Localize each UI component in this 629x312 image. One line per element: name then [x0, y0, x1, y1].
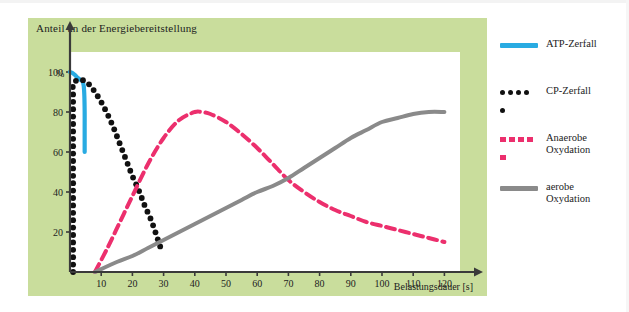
- axis-lines-layer: [66, 21, 484, 277]
- legend-item: aerobeOxydation: [500, 181, 626, 205]
- y-axis-tick-label: 20: [53, 227, 63, 238]
- axis-ticks-layer: 20406080100102030405060708090100110120: [48, 67, 452, 289]
- dotted-line-swatch: [500, 90, 538, 95]
- chart-plot: 20406080100102030405060708090100110120: [28, 18, 487, 296]
- figure-root: Anteil an der Energiebereitstellung % Be…: [0, 0, 629, 312]
- x-axis-tick-label: 50: [221, 278, 231, 289]
- chart-panel: Anteil an der Energiebereitstellung % Be…: [28, 18, 487, 296]
- x-axis-tick-label: 80: [315, 278, 325, 289]
- x-axis-tick-label: 30: [159, 278, 169, 289]
- x-axis-tick-label: 10: [96, 278, 106, 289]
- legend-item-label: ATP-Zerfall: [546, 38, 626, 50]
- legend-item: CP-Zerfall: [500, 85, 626, 107]
- x-axis-tick-label: 110: [406, 278, 421, 289]
- y-axis-tick-label: 40: [53, 187, 63, 198]
- x-axis-tick-label: 100: [375, 278, 390, 289]
- solid-line-swatch: [500, 186, 538, 191]
- solid-line-swatch: [500, 43, 538, 48]
- legend-item-label: CP-Zerfall: [546, 85, 626, 97]
- y-axis-tick-label: 100: [48, 67, 63, 78]
- x-axis-tick-label: 20: [127, 278, 137, 289]
- x-axis-tick-label: 120: [437, 278, 452, 289]
- dashed-line-swatch: [500, 137, 538, 142]
- legend: ATP-ZerfallCP-ZerfallAnaerobeOxydationae…: [500, 38, 626, 230]
- legend-item-label: aerobeOxydation: [546, 181, 626, 205]
- x-axis-tick-label: 60: [252, 278, 262, 289]
- y-axis-tick-label: 60: [53, 147, 63, 158]
- x-axis-tick-label: 90: [346, 278, 356, 289]
- x-axis-tick-label: 40: [190, 278, 200, 289]
- legend-item: AnaerobeOxydation: [500, 132, 626, 156]
- x-axis-tick-label: 70: [283, 278, 293, 289]
- page-edge-top: [0, 0, 629, 3]
- legend-item-label: AnaerobeOxydation: [546, 132, 626, 156]
- series-aerobe-oxydation: [95, 112, 444, 272]
- data-series-layer: [70, 72, 445, 275]
- legend-item: ATP-Zerfall: [500, 38, 626, 60]
- y-axis-tick-label: 80: [53, 107, 63, 118]
